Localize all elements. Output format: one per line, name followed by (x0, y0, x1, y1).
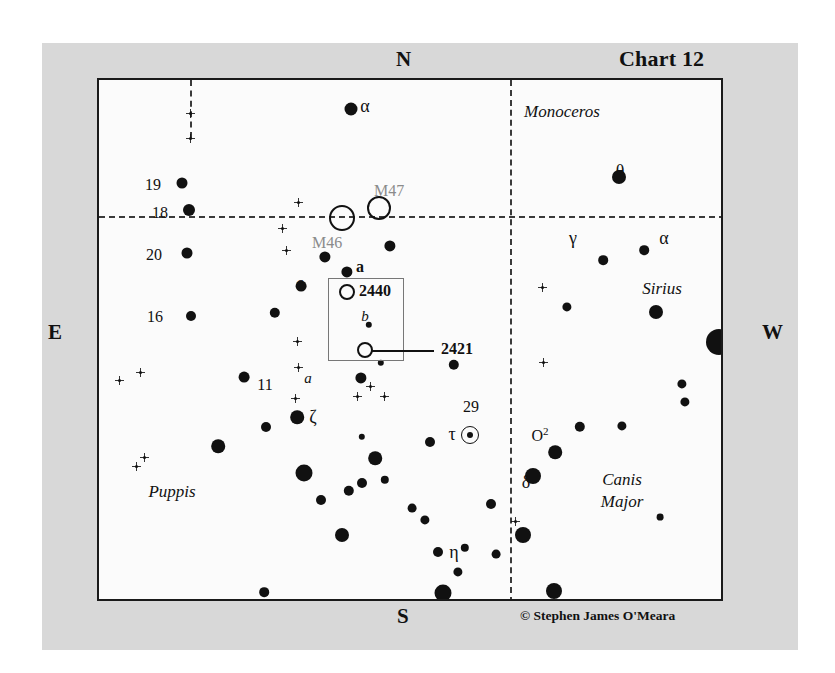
star-marker (345, 103, 358, 116)
faint-star-marker (140, 453, 149, 462)
object-label-18: 18 (152, 204, 168, 222)
star-marker (677, 379, 686, 388)
faint-star-marker (293, 337, 302, 346)
star-marker (706, 329, 721, 355)
star-marker (617, 421, 626, 430)
star-marker (546, 583, 562, 599)
star-marker (290, 410, 304, 424)
star-marker (657, 514, 664, 521)
object-label-29: 29 (463, 398, 479, 416)
star-marker (435, 585, 452, 600)
deep-sky-circle-2440 (339, 284, 355, 300)
object-label-ζ: ζ (309, 407, 316, 428)
cardinal-north: N (396, 47, 411, 72)
star-marker (357, 478, 367, 488)
star-marker (486, 499, 496, 509)
star-marker (182, 248, 193, 259)
star-marker (639, 245, 649, 255)
constellation-label-Puppis: Puppis (148, 482, 195, 502)
faint-star-marker (282, 246, 291, 255)
faint-star-marker (294, 363, 303, 372)
star-chart-page: N S E W Chart 12 © Stephen James O'Meara… (0, 0, 835, 673)
faint-star-marker (291, 394, 300, 403)
object-label-Sirius: Sirius (642, 279, 682, 299)
object-label-o: o (302, 464, 310, 482)
star-marker (341, 266, 352, 277)
faint-star-marker (186, 109, 195, 118)
star-marker (381, 476, 389, 484)
constellation-label-Monoceros: Monoceros (524, 102, 600, 122)
star-marker (316, 495, 326, 505)
star-marker (680, 397, 689, 406)
object-label-α: α (360, 96, 369, 117)
faint-star-marker (115, 376, 124, 385)
star-marker (239, 372, 250, 383)
chart-title: Chart 12 (619, 46, 704, 72)
faint-star-marker (511, 517, 520, 526)
grid-line-horizontal (99, 216, 721, 218)
object-label-α: α (659, 228, 668, 249)
deep-sky-label-2440: 2440 (359, 282, 391, 300)
star-marker (408, 504, 417, 513)
faint-star-marker (538, 283, 547, 292)
cardinal-west: W (762, 320, 783, 345)
constellation-label-Canis: Canis (602, 470, 642, 490)
star-marker (270, 308, 280, 318)
double-star-tau (461, 426, 479, 444)
object-label-τ: τ (448, 424, 455, 445)
faint-star-marker (353, 392, 362, 401)
object-label-6: 6 (296, 277, 304, 295)
object-label-omicron2: O2 (531, 425, 548, 445)
object-label-20: 20 (146, 246, 162, 264)
star-marker (649, 305, 663, 319)
object-label-η: η (449, 542, 458, 563)
object-label-b: b (361, 308, 369, 325)
cardinal-south: S (397, 604, 409, 629)
star-marker (420, 515, 429, 524)
object-label-11: 11 (257, 376, 272, 394)
faint-star-marker (136, 368, 145, 377)
star-marker (492, 550, 501, 559)
object-label-θ: θ (616, 161, 625, 182)
faint-star-marker (278, 224, 287, 233)
object-label-19: 19 (145, 176, 161, 194)
leader-line-2421 (372, 350, 434, 352)
object-label-16: 16 (147, 308, 163, 326)
star-marker (344, 486, 354, 496)
star-marker (548, 445, 562, 459)
object-label-a: a (304, 370, 312, 387)
deep-sky-label-2421: 2421 (441, 340, 473, 358)
object-label-a: a (356, 258, 364, 276)
star-marker (562, 302, 571, 311)
deep-sky-label-M46: M46 (312, 234, 342, 252)
faint-star-marker (366, 382, 375, 391)
object-label-δ: δ (522, 472, 530, 493)
star-marker (461, 544, 469, 552)
star-marker (186, 311, 196, 321)
deep-sky-circle-M46 (329, 205, 355, 231)
object-label-γ: γ (569, 228, 577, 249)
star-marker (575, 422, 585, 432)
star-marker (515, 527, 531, 543)
star-marker (384, 240, 395, 251)
star-marker (359, 434, 365, 440)
deep-sky-circle-2421 (357, 342, 373, 358)
constellation-label-Major: Major (601, 492, 644, 512)
faint-star-marker (294, 198, 303, 207)
star-marker (453, 567, 462, 576)
faint-star-marker (186, 134, 195, 143)
star-marker (183, 204, 195, 216)
star-marker (598, 255, 608, 265)
faint-star-marker (539, 358, 548, 367)
deep-sky-label-M47: M47 (374, 182, 404, 200)
sky-field: M47M4624402421αθγαζτδη1918201611629oabaS… (99, 80, 721, 599)
star-marker (319, 251, 330, 262)
chart-frame: M47M4624402421αθγαζτδη1918201611629oabaS… (97, 78, 723, 601)
star-marker (211, 439, 225, 453)
faint-star-marker (132, 462, 141, 471)
cardinal-east: E (48, 320, 62, 345)
faint-star-marker (380, 392, 389, 401)
star-marker (425, 437, 435, 447)
star-marker (177, 178, 188, 189)
copyright-credit: © Stephen James O'Meara (520, 608, 675, 624)
